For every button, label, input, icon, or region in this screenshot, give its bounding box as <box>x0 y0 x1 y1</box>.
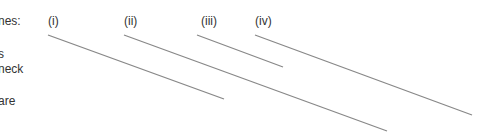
line-iii <box>197 35 283 67</box>
line-segments <box>0 0 480 136</box>
line-i <box>48 35 224 99</box>
line-iv <box>255 35 472 115</box>
line-ii <box>124 35 387 131</box>
